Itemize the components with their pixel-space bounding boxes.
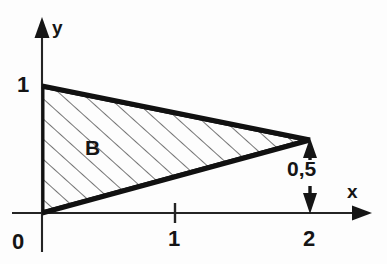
math-diagram: y x 1 0 1 2 B 0,5 xyxy=(0,0,387,264)
x-axis-tick-label-1: 1 xyxy=(168,228,180,250)
x-axis-arrowhead xyxy=(352,206,372,221)
x-axis-label: x xyxy=(347,182,358,201)
region-b-label: B xyxy=(85,137,100,158)
diagram-canvas xyxy=(0,0,387,264)
origin-label: 0 xyxy=(12,231,24,253)
y-axis-arrowhead xyxy=(35,17,50,38)
dimension-label-0-5: 0,5 xyxy=(287,158,316,179)
y-axis-label: y xyxy=(52,18,63,37)
y-axis-tick-label-1: 1 xyxy=(17,74,29,96)
x-axis-tick-label-2: 2 xyxy=(303,228,315,250)
dimension-arrowhead-down xyxy=(303,193,317,214)
